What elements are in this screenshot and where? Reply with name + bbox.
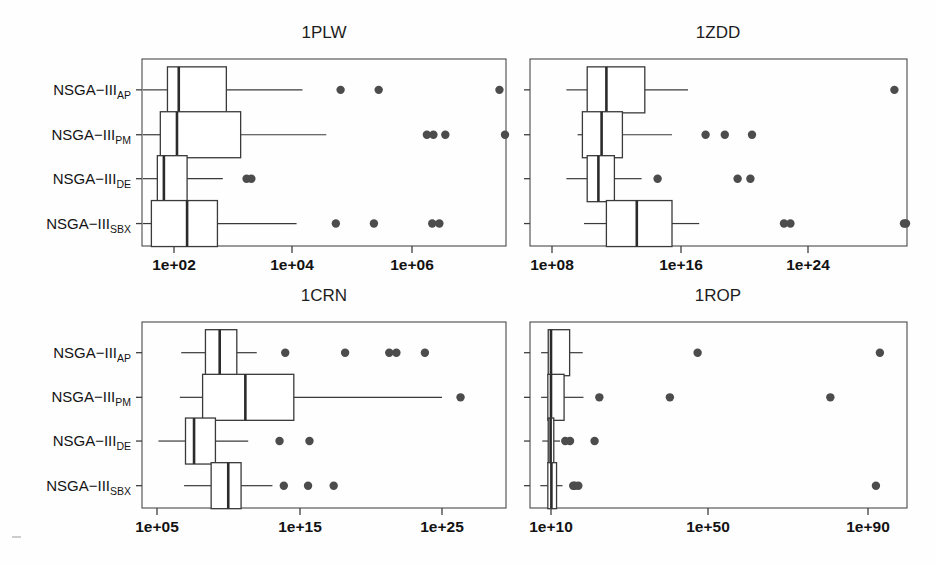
panel-1zdd: 1ZDD1e+081e+161e+24 — [524, 23, 910, 273]
box-iqr[interactable] — [587, 156, 614, 202]
ytick-label-de: NSGA−IIIDE — [53, 170, 131, 190]
boxplot-figure-canvas: 1PLWNSGA−IIIAPNSGA−IIIPMNSGA−IIIDENSGA−I… — [0, 0, 936, 566]
xtick-label-1e+90: 1e+90 — [846, 518, 890, 535]
outlier-point — [872, 481, 880, 489]
outlier-point — [336, 86, 344, 94]
outlier-point — [501, 131, 509, 139]
box-iqr[interactable] — [203, 374, 294, 420]
xtick-label-1e+15: 1e+15 — [278, 518, 322, 535]
outlier-point — [247, 174, 255, 182]
outlier-point — [456, 393, 464, 401]
box-row[interactable] — [158, 418, 313, 464]
outlier-point — [304, 481, 312, 489]
panel-title-1plw: 1PLW — [301, 23, 346, 42]
outlier-point — [902, 219, 910, 227]
outlier-point — [653, 174, 661, 182]
box-row[interactable] — [541, 330, 884, 376]
ytick-label-ap: NSGA−IIIAP — [53, 344, 131, 364]
box-row[interactable] — [542, 418, 599, 464]
outlier-point — [370, 219, 378, 227]
outlier-point — [341, 348, 349, 356]
ytick-label-pm: NSGA−IIIPM — [51, 126, 131, 146]
panel-1rop: 1ROP1e+101e+501e+90 — [524, 286, 907, 535]
box-iqr[interactable] — [160, 112, 240, 158]
panel-1plw: 1PLWNSGA−IIIAPNSGA−IIIPMNSGA−IIIDENSGA−I… — [46, 23, 509, 273]
outlier-point — [826, 393, 834, 401]
outlier-point — [746, 174, 754, 182]
outlier-point — [281, 348, 289, 356]
box-row[interactable] — [578, 112, 757, 158]
xtick-label-1e+04: 1e+04 — [270, 256, 314, 273]
box-iqr[interactable] — [587, 67, 645, 113]
outlier-point — [495, 86, 503, 94]
outlier-point — [566, 437, 574, 445]
outlier-point — [721, 131, 729, 139]
scan-artifact — [12, 536, 21, 538]
box-iqr[interactable] — [211, 463, 241, 509]
box-row[interactable] — [566, 156, 754, 202]
outlier-point — [275, 437, 283, 445]
box-row[interactable] — [541, 374, 834, 420]
box-iqr[interactable] — [606, 201, 672, 247]
box-iqr[interactable] — [186, 418, 216, 464]
box-iqr[interactable] — [157, 156, 187, 202]
panel-1crn: 1CRNNSGA−IIIAPNSGA−IIIPMNSGA−IIIDENSGA−I… — [46, 286, 506, 535]
outlier-point — [574, 481, 582, 489]
outlier-point — [428, 219, 436, 227]
outlier-point — [595, 393, 603, 401]
outlier-point — [435, 219, 443, 227]
panel-title-1rop: 1ROP — [695, 286, 741, 305]
figure-root: 1PLWNSGA−IIIAPNSGA−IIIPMNSGA−IIIDENSGA−I… — [0, 0, 936, 566]
outlier-point — [890, 86, 898, 94]
outlier-point — [693, 348, 701, 356]
outlier-point — [666, 393, 674, 401]
panels-layer: 1PLWNSGA−IIIAPNSGA−IIIPMNSGA−IIIDENSGA−I… — [12, 23, 910, 538]
ytick-label-sbx: NSGA−IIISBX — [46, 215, 131, 235]
box-row[interactable] — [540, 463, 880, 509]
outlier-point — [441, 131, 449, 139]
box-iqr[interactable] — [205, 330, 236, 376]
box-row[interactable] — [143, 201, 444, 247]
ytick-label-ap: NSGA−IIIAP — [53, 81, 131, 101]
ytick-label-sbx: NSGA−IIISBX — [46, 477, 131, 497]
box-row[interactable] — [584, 201, 910, 247]
outlier-point — [330, 481, 338, 489]
xtick-label-1e+06: 1e+06 — [390, 256, 434, 273]
xtick-label-1e+24: 1e+24 — [786, 256, 830, 273]
outlier-point — [590, 437, 598, 445]
box-row[interactable] — [143, 112, 509, 158]
panel-title-1zdd: 1ZDD — [696, 23, 740, 42]
xtick-label-1e+05: 1e+05 — [135, 518, 179, 535]
panel-title-1crn: 1CRN — [301, 286, 347, 305]
xtick-label-1e+08: 1e+08 — [530, 256, 574, 273]
outlier-point — [392, 348, 400, 356]
outlier-point — [701, 131, 709, 139]
outlier-point — [876, 348, 884, 356]
box-row[interactable] — [143, 156, 256, 202]
xtick-label-1e+10: 1e+10 — [529, 518, 573, 535]
xtick-label-1e+02: 1e+02 — [152, 256, 196, 273]
xtick-label-1e+16: 1e+16 — [659, 256, 703, 273]
outlier-point — [374, 86, 382, 94]
box-row[interactable] — [184, 463, 338, 509]
box-row[interactable] — [181, 330, 429, 376]
outlier-point — [421, 348, 429, 356]
outlier-point — [733, 174, 741, 182]
outlier-point — [748, 131, 756, 139]
outlier-point — [280, 481, 288, 489]
ytick-label-de: NSGA−IIIDE — [53, 432, 131, 452]
ytick-label-pm: NSGA−IIIPM — [51, 388, 131, 408]
outlier-point — [305, 437, 313, 445]
xtick-label-1e+50: 1e+50 — [686, 518, 730, 535]
outlier-point — [332, 219, 340, 227]
outlier-point — [429, 131, 437, 139]
outlier-point — [786, 219, 794, 227]
xtick-label-1e+25: 1e+25 — [420, 518, 464, 535]
panel-frame — [142, 322, 506, 508]
box-row[interactable] — [180, 374, 465, 420]
box-iqr[interactable] — [167, 67, 226, 113]
box-row[interactable] — [143, 67, 504, 113]
panel-frame — [530, 322, 907, 508]
box-iqr[interactable] — [151, 201, 217, 247]
box-row[interactable] — [566, 67, 898, 113]
